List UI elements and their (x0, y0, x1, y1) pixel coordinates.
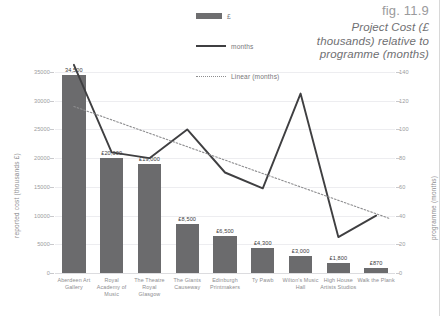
solid-line-swatch-icon (196, 45, 226, 47)
figure-title: Project Cost (£ thousands) relative to p… (291, 21, 429, 62)
y-axis-left-tick-label: 35000 (24, 69, 50, 75)
bar-swatch-icon (196, 13, 222, 19)
y-axis-right-tick-label: 120 (399, 98, 425, 104)
line-series-overlay (55, 72, 395, 273)
y-axis-left-tick-label: 10000 (24, 213, 50, 219)
y-axis-right-tick-mark (396, 101, 400, 102)
y-axis-right-tick-label: 80 (399, 155, 425, 161)
y-axis-left-tick-mark (50, 216, 54, 217)
y-axis-right-tick-mark (396, 187, 400, 188)
y-axis-left-tick-mark (50, 187, 54, 188)
legend-item-cost: £ (196, 4, 306, 28)
y-axis-left-tick-mark (50, 244, 54, 245)
y-axis-right-tick-mark (396, 158, 400, 159)
page-edge-rule (439, 0, 440, 316)
y-axis-right-tick-mark (396, 216, 400, 217)
x-axis-category-label: Walk the Plank (357, 277, 395, 284)
x-axis-category-label: Aberdeen Art Gallery (55, 277, 93, 291)
y-axis-left-tick-label: 25000 (24, 126, 50, 132)
y-axis-right-tick-label: 0 (399, 270, 425, 276)
months-line-path (74, 65, 376, 237)
x-axis-category-label: Edinburgh Printmakers (206, 277, 244, 291)
figure-page: £ months Linear (months) fig. 11.9 Proje… (0, 0, 441, 316)
y-axis-left-tick-mark (50, 158, 54, 159)
y-axis-left-tick-label: 0 (24, 270, 50, 276)
gridline (55, 273, 395, 274)
x-axis-category-label: Royal Academy of Music (93, 277, 131, 298)
y-axis-left-tick-mark (50, 72, 54, 73)
y-axis-right-tick-mark (396, 72, 400, 73)
y-axis-right-tick-label: 20 (399, 241, 425, 247)
y-axis-right-tick-label: 100 (399, 126, 425, 132)
y-axis-right-tick-mark (396, 273, 400, 274)
figure-caption: fig. 11.9 Project Cost (£ thousands) rel… (291, 3, 429, 62)
y-axis-title-left: reported cost (thousands £) (13, 153, 20, 238)
x-axis-category-label: Wilton's Music Hall (282, 277, 320, 291)
y-axis-left-tick-label: 20000 (24, 155, 50, 161)
y-axis-left-tick-mark (50, 129, 54, 130)
x-axis-category-label: The Giants Causeway (168, 277, 206, 291)
y-axis-right-tick-label: 40 (399, 213, 425, 219)
y-axis-left-tick-label: 15000 (24, 184, 50, 190)
y-axis-right-tick-label: 60 (399, 184, 425, 190)
y-axis-title-right: programme (months) (430, 176, 437, 240)
linear-trendline-path (74, 106, 389, 218)
y-axis-right-tick-mark (396, 244, 400, 245)
legend-label-months: months (231, 43, 254, 50)
y-axis-right-tick-mark (396, 129, 400, 130)
y-axis-right-tick-label: 140 (399, 69, 425, 75)
legend-item-months: months (196, 34, 306, 58)
y-axis-left-tick-mark (50, 101, 54, 102)
x-axis-category-label: The Theatre Royal Glasgow (131, 277, 169, 298)
y-axis-left-tick-mark (50, 273, 54, 274)
x-axis-category-label: High House Artists Studios (319, 277, 357, 291)
x-axis-category-label: Ty Pawb (244, 277, 282, 284)
y-axis-left-tick-label: 30000 (24, 98, 50, 104)
legend-label-cost: £ (227, 13, 231, 20)
figure-number: fig. 11.9 (291, 3, 429, 18)
y-axis-left-tick-label: 5000 (24, 241, 50, 247)
